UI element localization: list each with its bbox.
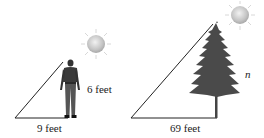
sun-icon-right xyxy=(225,1,255,30)
tree-shadow-label: 69 feet xyxy=(170,122,200,134)
tree-figure xyxy=(189,21,240,118)
person-figure xyxy=(60,60,80,119)
similar-triangles-diagram xyxy=(0,0,264,138)
person-height-label: 6 feet xyxy=(87,83,112,95)
tree-height-label: n xyxy=(245,68,251,80)
person-shadow-label: 9 feet xyxy=(37,122,62,134)
sun-icon-left xyxy=(81,29,111,59)
